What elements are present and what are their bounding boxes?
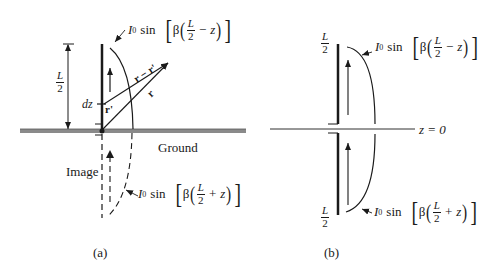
vector-r-minus-r-prime (104, 63, 168, 104)
fraction-numerator: L (56, 70, 64, 83)
sin-function: sin (386, 204, 401, 220)
operator: + (445, 204, 452, 220)
fraction-denominator: 2 (187, 31, 195, 43)
variable-z: z (210, 22, 215, 38)
image-label: Image (66, 165, 98, 178)
fraction-numerator: L (197, 182, 205, 195)
operator: − (446, 39, 453, 55)
fraction-denominator: 2 (434, 48, 442, 60)
ground-label: Ground (158, 141, 198, 154)
fraction-numerator: L (321, 205, 329, 218)
current-subscript: 0 (132, 26, 136, 35)
lower-current-formula-b: I0 sin [β( L2 + z)] (374, 198, 478, 226)
fraction-numerator: L (321, 31, 329, 44)
caption-b: (b) (324, 246, 339, 259)
dimension-label: L2 (56, 70, 64, 94)
operator: − (199, 22, 206, 38)
fraction-denominator: 2 (433, 213, 441, 225)
fraction-numerator: L (434, 35, 442, 48)
image-current-arc (108, 133, 132, 216)
current-subscript: 0 (379, 43, 383, 52)
r-prime-label: r' (105, 104, 113, 115)
ground-plane (20, 129, 246, 133)
top-end-label: L2 (321, 31, 329, 55)
lower-current-arc (346, 134, 375, 212)
panel-b (270, 44, 415, 215)
sin-function: sin (387, 39, 402, 55)
beta-symbol: β (183, 186, 190, 202)
current-distribution-arc (110, 48, 133, 129)
upper-current-arc (347, 47, 375, 124)
fraction-numerator: L (433, 200, 441, 213)
beta-symbol: β (173, 22, 180, 38)
beta-symbol: β (420, 39, 427, 55)
current-subscript: 0 (378, 208, 382, 217)
fraction-denominator: 2 (321, 44, 329, 56)
bottom-end-label: L2 (321, 205, 329, 229)
sin-function: sin (140, 22, 155, 38)
lower-current-formula-a: I0 sin [β( L2 + z)] (138, 180, 242, 208)
dz-label: dz (82, 98, 93, 110)
upper-current-formula-a: I0 sin [β( L2 − z)] (128, 16, 232, 44)
sin-function: sin (150, 186, 165, 202)
fraction-denominator: 2 (56, 83, 64, 95)
variable-z: z (457, 39, 462, 55)
caption-a: (a) (93, 246, 107, 259)
variable-z: z (456, 204, 461, 220)
fraction-denominator: 2 (321, 218, 329, 230)
fraction-denominator: 2 (197, 195, 205, 207)
variable-z: z (220, 186, 225, 202)
operator: + (209, 186, 216, 202)
upper-current-formula-b: I0 sin [β( L2 − z)] (375, 33, 479, 61)
z-axis-label: z = 0 (419, 123, 446, 136)
fraction-numerator: L (187, 18, 195, 31)
beta-symbol: β (419, 204, 426, 220)
current-subscript: 0 (142, 190, 146, 199)
